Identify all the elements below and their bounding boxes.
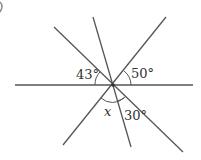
line-descending [54, 27, 183, 152]
line-steep [93, 17, 131, 147]
label-43: 43° [76, 67, 99, 82]
partial-bracket [0, 2, 2, 12]
label-x: x [104, 104, 112, 119]
center-point [111, 83, 115, 87]
arc-50 [124, 71, 131, 85]
angle-diagram: 43° 50° 30° x [0, 0, 201, 160]
label-50: 50° [131, 66, 154, 81]
label-30: 30° [124, 108, 147, 123]
